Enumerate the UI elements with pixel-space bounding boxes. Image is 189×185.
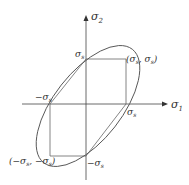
sigma1-arrow-icon xyxy=(162,102,168,107)
yield-criteria-diagram: σ2 σ1 σs (σs, σs) −σs σs −σs (−σs, −σs) xyxy=(0,0,189,185)
label-top-sigma-s: σs xyxy=(75,49,84,60)
tresca-hexagon xyxy=(50,59,126,156)
label-bottom-left-point: (−σs, −σs) xyxy=(9,156,56,167)
sigma2-axis-label: σ2 xyxy=(91,10,104,25)
sigma2-arrow-icon xyxy=(84,15,89,21)
sigma1-axis-label: σ1 xyxy=(171,98,183,113)
label-bottom-neg-sigma-s: −σs xyxy=(87,158,104,169)
label-top-right-point: (σs, σs) xyxy=(126,54,158,65)
label-left-neg-sigma-s: −σs xyxy=(35,92,52,103)
label-right-sigma-s: σs xyxy=(127,107,136,118)
